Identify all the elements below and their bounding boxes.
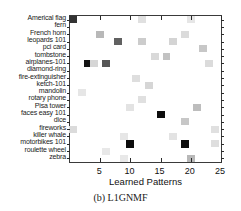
y-axis-tick [67, 27, 70, 28]
x-axis-tick [161, 158, 162, 162]
y-axis-tick [67, 93, 70, 94]
y-axis-tick [67, 63, 70, 64]
x-axis-tick [100, 158, 101, 162]
y-axis-tick [221, 34, 224, 35]
y-axis-label: killer whale [0, 131, 66, 138]
y-axis-tick [67, 85, 70, 86]
heatmap-cell [120, 133, 128, 140]
heatmap-cell [163, 53, 171, 60]
x-axis-tick [130, 16, 131, 20]
y-axis-label: tombstone [0, 51, 66, 58]
y-axis-tick [221, 107, 224, 108]
x-axis-tick [221, 158, 222, 162]
heatmap-cell [78, 89, 86, 96]
x-axis-tick-label: 20 [185, 166, 195, 176]
y-axis-label: fern [0, 21, 66, 28]
y-axis-label: mandolin [0, 87, 66, 94]
heatmap-cell [211, 126, 219, 133]
y-axis-tick [67, 136, 70, 137]
y-axis-label: Americal flag [0, 14, 66, 21]
y-axis-label: airplanes-101 [0, 58, 66, 65]
heatmap-cell [102, 60, 110, 68]
y-axis-tick [221, 27, 224, 28]
heatmap-cell [169, 38, 177, 45]
heatmap-cell [138, 16, 146, 23]
y-axis-tick [221, 136, 224, 137]
y-axis-tick [67, 56, 70, 57]
figure-caption: (b) L1GNMF [0, 192, 241, 203]
y-axis-label: leopards 101 [0, 36, 66, 43]
y-axis-tick [221, 115, 224, 116]
heatmap-cell [90, 60, 98, 67]
y-axis-tick [221, 71, 224, 72]
heatmap-cell [145, 82, 153, 89]
y-axis-label: Pisa tower [0, 102, 66, 109]
y-axis-tick [67, 107, 70, 108]
y-axis-tick [67, 71, 70, 72]
x-axis-tick-label: 10 [124, 166, 134, 176]
y-axis-tick [67, 34, 70, 35]
y-axis-tick [221, 100, 224, 101]
y-axis-tick [67, 115, 70, 116]
y-axis-tick [67, 78, 70, 79]
y-axis-label: zebra [0, 153, 66, 160]
x-axis-tick-label: 5 [97, 166, 102, 176]
heatmap-cell [157, 111, 165, 119]
heatmap-cell [193, 104, 201, 111]
y-axis-label: pci card [0, 43, 66, 50]
x-axis-tick [130, 158, 131, 162]
y-axis-tick [67, 122, 70, 123]
y-axis-label: diamond-ring [0, 65, 66, 72]
x-axis-tick [221, 16, 222, 20]
heatmap-cell [69, 16, 77, 24]
x-axis-tick [191, 158, 192, 162]
heatmap-cell [181, 118, 189, 125]
y-axis-tick [221, 78, 224, 79]
heatmap-cell [211, 140, 219, 147]
y-axis-tick [67, 42, 70, 43]
y-axis-tick [221, 85, 224, 86]
heatmap-cell [132, 75, 140, 82]
y-axis-label: rotary phone [0, 94, 66, 101]
heatmap-cell [169, 133, 177, 140]
heatmap-cells [70, 16, 221, 162]
heatmap-cell [138, 38, 146, 45]
heatmap-cell [138, 96, 146, 103]
heatmap-cell [151, 53, 159, 60]
y-axis-tick [221, 129, 224, 130]
y-axis-labels: Americal flagfernFrench hornleopards 101… [0, 14, 66, 166]
y-axis-tick [221, 151, 224, 152]
y-axis-label: French horn [0, 29, 66, 36]
heatmap-cell [114, 38, 122, 46]
heatmap-cell [199, 45, 207, 52]
y-axis-tick [67, 100, 70, 101]
figure-l1gnmf: Americal flagfernFrench hornleopards 101… [0, 0, 241, 211]
x-axis-tick-label: 15 [155, 166, 165, 176]
y-axis-tick [67, 20, 70, 21]
y-axis-label: fireworks [0, 124, 66, 131]
x-axis-title: Learned Patterns [69, 176, 222, 187]
x-axis-tick [100, 16, 101, 20]
y-axis-tick [67, 144, 70, 145]
heatmap-cell [120, 155, 128, 162]
y-axis-tick [67, 151, 70, 152]
heatmap-cell [205, 60, 213, 67]
heatmap-cell [126, 104, 134, 111]
y-axis-tick [221, 56, 224, 57]
y-axis-tick [67, 158, 70, 159]
heatmap-cell [69, 126, 77, 133]
heatmap-cell [96, 31, 104, 38]
heatmap-cell [181, 31, 189, 38]
y-axis-label: faces easy 101 [0, 109, 66, 116]
y-axis-label: roulette wheel [0, 146, 66, 153]
y-axis-tick [221, 93, 224, 94]
y-axis-tick [221, 63, 224, 64]
y-axis-label: motorbikes 101 [0, 138, 66, 145]
heatmap-cell [181, 140, 189, 148]
y-axis-tick [221, 49, 224, 50]
heatmap-plot-area [69, 15, 222, 163]
y-axis-label: dice [0, 116, 66, 123]
y-axis-tick [221, 122, 224, 123]
heatmap-cell [126, 140, 134, 148]
x-axis-tick [161, 16, 162, 20]
